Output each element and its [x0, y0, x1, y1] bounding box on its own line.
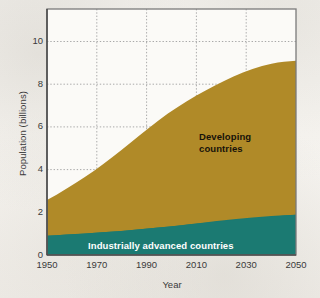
developing-countries-label-line1: Developing: [199, 131, 251, 143]
x-tick-1970: 1970: [77, 259, 117, 270]
y-tick-4: 4: [13, 163, 43, 174]
developing-countries-label: Developing countries: [199, 131, 251, 155]
population-area-chart: Population (billions) 10 8 6 4 2 0 1950 …: [0, 0, 320, 298]
developing-countries-label-line2: countries: [199, 143, 251, 155]
x-axis-title: Year: [47, 279, 297, 290]
y-tick-0: 0: [13, 249, 43, 260]
x-tick-2030: 2030: [226, 259, 266, 270]
y-tick-8: 8: [13, 78, 43, 89]
y-tick-10: 10: [13, 35, 43, 46]
x-tick-2010: 2010: [176, 259, 216, 270]
x-tick-2050: 2050: [276, 259, 316, 270]
y-tick-6: 6: [13, 120, 43, 131]
x-tick-1990: 1990: [127, 259, 167, 270]
x-tick-1950: 1950: [27, 259, 67, 270]
y-tick-2: 2: [13, 206, 43, 217]
y-tick-labels: 10 8 6 4 2 0: [10, 0, 43, 298]
chart-svg: [0, 0, 320, 298]
industrial-countries-label: Industrially advanced countries: [88, 240, 234, 252]
